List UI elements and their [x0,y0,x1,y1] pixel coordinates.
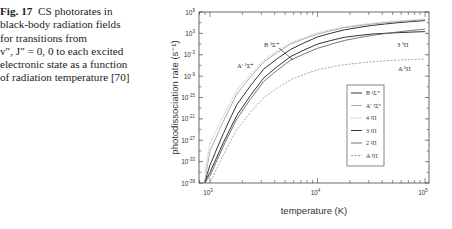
y-tick-label: 10-21 [181,114,195,122]
legend-label: A ¹Π [366,153,378,159]
y-tick-label: 10-27 [181,136,195,144]
y-tick-label: 10-3 [184,50,196,58]
legend-label: 4 ¹Π [366,115,377,121]
y-tick-label: 10-9 [184,72,196,80]
series-line [205,19,425,172]
legend-label: B ¹Σ⁺ [366,90,380,96]
legend: B ¹Σ⁺A′ ¹Σ⁺4 ¹Π3 ¹Π2 ¹ΠA ¹Π [347,85,384,166]
series-line [205,59,425,183]
x-tick-label: 104 [311,188,321,196]
photorate-chart: 10910310-310-910-1510-2110-2710-3310-391… [0,0,452,229]
x-tick-label: 105 [418,188,428,196]
x-axis-label: temperature (K) [281,205,348,216]
plot-frame [199,12,429,183]
legend-label: A′ ¹Σ⁺ [366,103,381,109]
y-tick-label: 10-33 [181,157,195,165]
legend-label: 2 ¹Π [366,140,377,146]
series-line [205,32,425,183]
curve-annotation: A ¹Π [398,65,411,72]
y-tick-label: 109 [185,8,195,16]
legend-label: 3 ¹Π [366,128,377,134]
y-tick-label: 103 [185,29,195,37]
y-tick-label: 10-39 [181,179,195,187]
axes: 10910310-310-910-1510-2110-2710-3310-391… [169,8,429,217]
curve-annotation: 3 ¹Π [397,41,409,48]
y-axis-label: photodissociation rate (s⁻¹) [169,40,180,154]
series-line [205,29,425,183]
x-tick-label: 103 [203,188,213,196]
curve-annotation: A′ ¹Σ⁺ [237,62,254,69]
series-line [205,20,425,183]
y-tick-label: 10-15 [181,93,195,101]
curve-annotation: B ¹Σ⁺ [264,41,280,48]
